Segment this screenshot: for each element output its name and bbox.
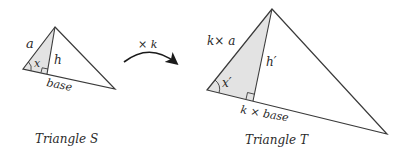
curved-arrow [124,52,176,63]
triangle-t: k× a h′ x′ k × base [207,9,387,134]
similar-triangles-diagram: a h x base × k k× a h′ x′ k × base Trian… [0,0,405,152]
triangle-s-caption: Triangle S [35,132,98,146]
triangle-t-height-label: h′ [266,55,277,69]
triangle-t-side-label: k× a [207,34,235,48]
triangle-s: a h x base [23,27,115,94]
scale-factor-label: × k [138,38,158,51]
triangle-s-angle-label: x [34,57,41,70]
triangle-s-side-label: a [26,36,34,51]
triangle-t-caption: Triangle T [245,133,309,147]
triangle-t-base-label: k × base [239,103,290,124]
triangle-t-angle-label: x′ [222,76,232,90]
triangle-s-height-label: h [54,53,62,67]
scale-transformation: × k [124,38,176,63]
